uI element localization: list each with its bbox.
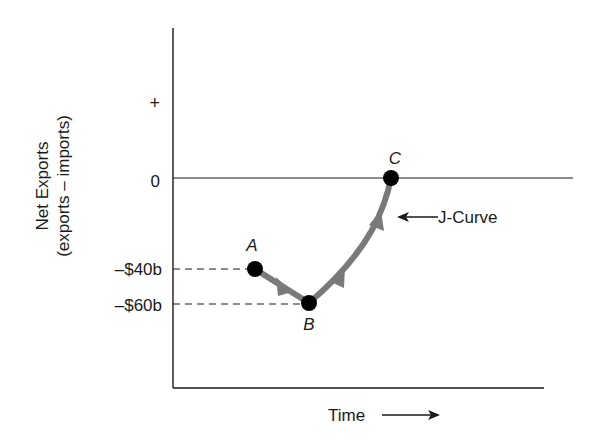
point-b xyxy=(301,295,317,311)
tick-zero: 0 xyxy=(151,172,160,191)
point-a-label: A xyxy=(245,236,257,255)
tick-minus40: –$40b xyxy=(115,260,162,279)
point-c-label: C xyxy=(389,149,402,168)
y-axis-label-group: Net Exports (exports – imports) xyxy=(33,115,73,257)
y-axis-sublabel: (exports – imports) xyxy=(54,115,73,257)
x-axis-label: Time xyxy=(328,406,365,425)
point-b-label: B xyxy=(303,315,314,334)
point-a xyxy=(247,261,263,277)
j-curve-annotation: J-Curve xyxy=(438,208,498,227)
tick-plus: + xyxy=(149,93,160,113)
j-curve-path xyxy=(255,178,391,303)
point-c xyxy=(383,170,399,186)
tick-minus60: –$60b xyxy=(115,296,162,315)
y-axis-label: Net Exports xyxy=(33,142,52,231)
j-curve-diagram: A B C J-Curve + 0 –$40b –$60b Net Export… xyxy=(0,0,608,443)
